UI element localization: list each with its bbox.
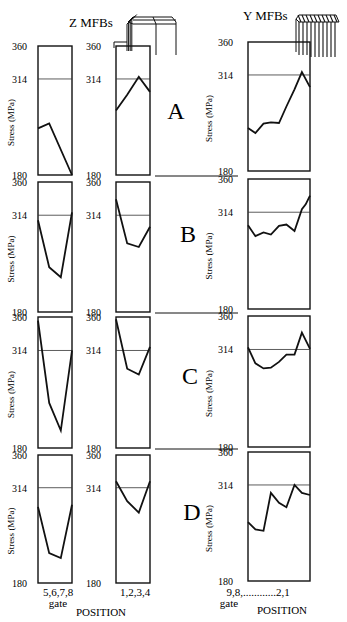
panel-d-z1: 360314180Stress (MPa) <box>6 450 72 589</box>
x-sublabel-y: gate <box>220 597 238 609</box>
y-tick-label-360: 360 <box>218 37 233 48</box>
panel-frame <box>38 46 72 175</box>
panel-frame <box>248 42 310 171</box>
stress-series-line <box>38 123 72 175</box>
y-tick-label-180: 180 <box>86 578 101 589</box>
panel-frame <box>116 182 150 312</box>
position-label-y: POSITION <box>257 604 307 616</box>
stress-series-line <box>116 77 150 111</box>
z-mfb-icon <box>114 15 176 56</box>
y-mfbs-header: Y MFBs <box>243 8 288 23</box>
stress-series-line <box>38 212 72 277</box>
row-label-b: B <box>180 221 196 247</box>
panel-c-z2: 360314180 <box>86 312 150 454</box>
y-tick-label-360: 360 <box>12 312 27 323</box>
x-sublabel-z1: gate <box>49 597 67 609</box>
panel-b-z2: 360314180 <box>86 177 150 318</box>
stress-series-line <box>248 485 310 531</box>
y-tick-label-360: 360 <box>12 41 27 52</box>
stress-series-line <box>248 72 310 133</box>
y-tick-label-314: 314 <box>218 344 233 355</box>
stress-series-line <box>38 321 72 431</box>
y-axis-label: Stress (MPa) <box>204 505 214 552</box>
y-mfb-icon <box>296 15 339 57</box>
y-axis-label: Stress (MPa) <box>204 95 214 142</box>
y-axis-label: Stress (MPa) <box>6 508 16 555</box>
panel-a-z1: 360314180Stress (MPa) <box>6 41 72 181</box>
stress-figure: 360314180Stress (MPa)360314180360314180S… <box>0 0 347 622</box>
row-label-a: A <box>167 98 185 124</box>
stress-series-line <box>38 505 72 558</box>
y-tick-label-314: 314 <box>12 345 27 356</box>
y-tick-label-314: 314 <box>218 480 233 491</box>
row-label-d: D <box>183 499 200 525</box>
y-axis-label: Stress (MPa) <box>204 370 214 417</box>
panel-frame <box>116 46 150 175</box>
panel-b-z1: 360314180Stress (MPa) <box>6 177 72 318</box>
panel-c-z1: 360314180Stress (MPa) <box>6 312 72 454</box>
stress-series-line <box>248 196 310 237</box>
panel-frame <box>116 317 150 448</box>
y-tick-label-360: 360 <box>12 450 27 461</box>
y-axis-label: Stress (MPa) <box>6 236 16 283</box>
panel-d-y: 360314180Stress (MPa) <box>204 447 310 587</box>
y-tick-label-314: 314 <box>86 483 101 494</box>
y-tick-label-360: 360 <box>86 312 101 323</box>
x-label-z2: 1,2,3,4 <box>120 586 151 598</box>
panel-b-y: 360314180Stress (MPa) <box>204 174 310 315</box>
row-label-c: C <box>182 363 198 389</box>
y-tick-label-360: 360 <box>86 450 101 461</box>
y-axis-label: Stress (MPa) <box>6 371 16 418</box>
y-tick-label-180: 180 <box>12 578 27 589</box>
y-tick-label-314: 314 <box>218 70 233 81</box>
position-label-z: POSITION <box>76 606 126 618</box>
y-tick-label-314: 314 <box>218 207 233 218</box>
y-tick-label-314: 314 <box>86 345 101 356</box>
panels: 360314180Stress (MPa)360314180360314180S… <box>6 37 310 589</box>
stress-series-line <box>116 481 150 512</box>
panel-a-y: 360314180Stress (MPa) <box>204 37 310 177</box>
stress-series-line <box>116 199 150 247</box>
panel-frame <box>248 452 310 581</box>
panel-frame <box>38 455 72 583</box>
y-tick-label-314: 314 <box>86 74 101 85</box>
y-tick-label-360: 360 <box>86 177 101 188</box>
panel-frame <box>248 179 310 309</box>
y-axis-label: Stress (MPa) <box>204 233 214 280</box>
stress-series-line <box>116 319 150 374</box>
y-tick-label-314: 314 <box>86 210 101 221</box>
y-axis-label: Stress (MPa) <box>6 99 16 146</box>
y-tick-label-314: 314 <box>12 210 27 221</box>
panel-c-y: 360314180Stress (MPa) <box>204 311 310 453</box>
panel-d-z2: 360314180 <box>86 450 150 589</box>
y-tick-label-360: 360 <box>12 177 27 188</box>
panel-a-z2: 360314180 <box>86 41 150 181</box>
panel-frame <box>116 455 150 583</box>
mfb-icons <box>114 15 339 58</box>
z-mfbs-header: Z MFBs <box>69 15 113 30</box>
stress-series-line <box>248 333 310 369</box>
y-tick-label-314: 314 <box>12 74 27 85</box>
y-tick-label-360: 360 <box>86 41 101 52</box>
y-tick-label-314: 314 <box>12 483 27 494</box>
